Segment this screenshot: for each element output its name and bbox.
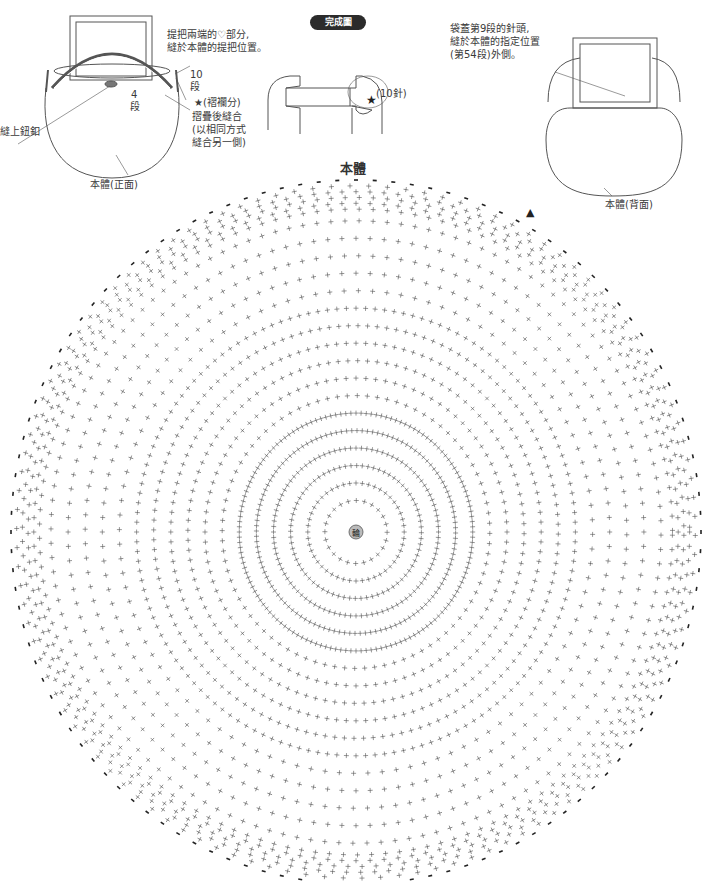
svg-text:▲: ▲ (526, 206, 535, 219)
crochet-chart: 輪▲ (0, 0, 704, 883)
svg-text:輪: 輪 (352, 528, 360, 538)
